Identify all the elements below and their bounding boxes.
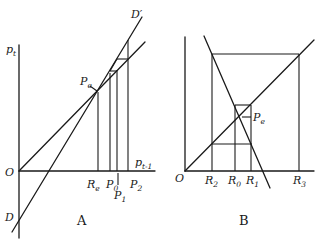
origin-label-b: O	[175, 172, 184, 185]
tick-label-r3: R3	[292, 174, 306, 189]
panel-a: pt pt-1 O D D′ Pe Re P0 P1 P2 A	[4, 8, 155, 238]
equilibrium-label-b: Pe	[252, 111, 265, 126]
equilibrium-label-a: Pe	[79, 75, 92, 90]
tick-label-p2: P2	[129, 178, 142, 193]
panel-label-b: B	[239, 213, 249, 228]
x-axis-label-a: pt-1	[135, 156, 152, 171]
origin-label-a: O	[5, 166, 14, 179]
y-axis-label-a: pt	[6, 43, 17, 58]
intercept-label-d: D	[4, 211, 14, 224]
tick-label-r1: R1	[245, 174, 259, 189]
demand-label-d-prime: D′	[130, 8, 143, 21]
tick-label-r0: R0	[227, 174, 241, 189]
cobweb-diag-1-a	[110, 59, 117, 71]
tick-label-r2: R2	[204, 174, 218, 189]
forty-five-degree-line-a	[19, 42, 145, 171]
panel-label-a: A	[76, 213, 87, 228]
tick-label-re: Re	[86, 178, 100, 193]
cobweb-diagram: pt pt-1 O D D′ Pe Re P0 P1 P2 A O Pe R2 …	[0, 0, 322, 245]
panel-b: O Pe R2 R0 R1 R3 B	[175, 36, 314, 228]
tick-label-p1: P1	[113, 189, 126, 204]
